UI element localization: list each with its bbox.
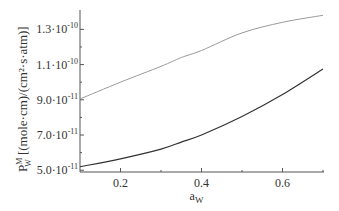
x-tick-label: 0.2 (113, 176, 128, 190)
y-tick-label: 5.0·10-11 (37, 162, 78, 177)
axis-labels: aWPMW[(mole·cm)/(cm²·s·atm)] (15, 26, 204, 205)
x-tick-label: 0.4 (194, 176, 209, 190)
y-tick-label: 9.0·10-11 (37, 92, 78, 107)
tick-labels: 0.20.40.65.0·10-117.0·10-119.0·10-111.1·… (36, 21, 290, 190)
y-tick-label: 7.0·10-11 (37, 127, 78, 142)
x-tick-label: 0.6 (275, 176, 290, 190)
series-lines (80, 15, 323, 166)
line-chart: 0.20.40.65.0·10-117.0·10-119.0·10-111.1·… (0, 0, 339, 211)
y-axis-label: PMW[(mole·cm)/(cm²·s·atm)] (15, 26, 33, 172)
y-tick-label: 1.1·10-10 (36, 57, 78, 72)
upper-curve (80, 15, 323, 99)
y-tick-label: 1.3·10-10 (36, 21, 78, 36)
x-axis-label: aW (190, 189, 204, 205)
